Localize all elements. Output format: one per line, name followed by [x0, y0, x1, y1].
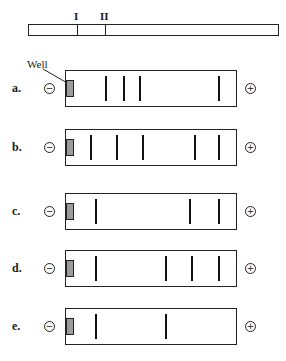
gel-option-label: d.: [12, 261, 22, 276]
negative-electrode-icon: −: [44, 321, 55, 332]
dna-band: [218, 199, 220, 224]
dna-band: [95, 314, 97, 339]
gel-lane: [65, 193, 237, 230]
dna-band: [218, 135, 220, 160]
gel-option-label: c.: [12, 204, 20, 219]
negative-electrode-icon: −: [44, 206, 55, 217]
gel-option-label: b.: [12, 140, 22, 155]
gel-lane: [65, 250, 237, 287]
well-leader-line: [0, 0, 286, 361]
dna-band: [191, 256, 193, 281]
positive-electrode-icon: +: [245, 206, 256, 217]
sample-well: [66, 139, 74, 156]
dna-band: [194, 135, 196, 160]
gel-lane: [65, 129, 237, 166]
dna-band: [165, 256, 167, 281]
gel-lane: [65, 308, 237, 345]
dna-band: [165, 314, 167, 339]
dna-band: [142, 135, 144, 160]
dna-band: [218, 76, 220, 101]
dna-band: [105, 76, 107, 101]
gel-option-label: e.: [12, 319, 20, 334]
sample-well: [66, 80, 74, 97]
dna-band: [123, 76, 125, 101]
negative-electrode-icon: −: [44, 142, 55, 153]
dna-band: [189, 199, 191, 224]
gel-lane: [65, 70, 237, 107]
positive-electrode-icon: +: [245, 83, 256, 94]
sample-well: [66, 203, 74, 220]
negative-electrode-icon: −: [44, 83, 55, 94]
sample-well: [66, 260, 74, 277]
positive-electrode-icon: +: [245, 142, 256, 153]
dna-band: [116, 135, 118, 160]
dna-band: [95, 256, 97, 281]
negative-electrode-icon: −: [44, 263, 55, 274]
dna-band: [95, 199, 97, 224]
dna-band: [139, 76, 141, 101]
dna-band: [90, 135, 92, 160]
positive-electrode-icon: +: [245, 263, 256, 274]
positive-electrode-icon: +: [245, 321, 256, 332]
dna-band: [218, 256, 220, 281]
sample-well: [66, 318, 74, 335]
gel-option-label: a.: [12, 81, 21, 96]
